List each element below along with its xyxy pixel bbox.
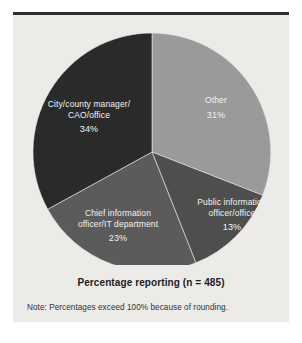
pie-label-other: Other 31%: [173, 95, 259, 120]
pie-label-public-information-officer-line1: Public information: [197, 197, 266, 207]
pie-chart-figure: Other 31% City/county manager/ CAO/offic…: [0, 0, 302, 343]
pie-label-other-percent: 31%: [173, 110, 259, 121]
pie-label-chief-information-officer-line2: officer/IT department: [78, 219, 158, 229]
pie-label-city-county-manager-line1: City/county manager/: [48, 99, 130, 109]
pie-label-chief-information-officer-percent: 23%: [59, 233, 177, 244]
pie-label-other-line1: Other: [205, 95, 227, 105]
chart-note: Note: Percentages exceed 100% because of…: [27, 303, 289, 312]
pie-label-chief-information-officer-line1: Chief information: [85, 208, 151, 218]
pie-label-city-county-manager: City/county manager/ CAO/office 34%: [31, 99, 147, 135]
pie-label-chief-information-officer: Chief information officer/IT department …: [59, 208, 177, 244]
pie-label-public-information-officer-percent: 13%: [182, 222, 282, 233]
pie-label-public-information-officer-line2: officer/office: [209, 208, 256, 218]
chart-area: Other 31% City/county manager/ CAO/offic…: [13, 15, 289, 322]
pie-label-city-county-manager-line2: CAO/office: [68, 110, 110, 120]
pie-label-public-information-officer: Public information officer/office 13%: [182, 197, 282, 233]
pie-graphic: Other 31% City/county manager/ CAO/offic…: [13, 15, 289, 265]
chart-caption: Percentage reporting (n = 485): [13, 277, 289, 288]
pie-label-city-county-manager-percent: 34%: [31, 124, 147, 135]
